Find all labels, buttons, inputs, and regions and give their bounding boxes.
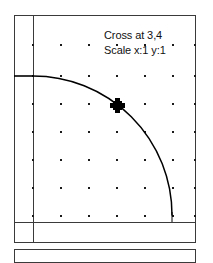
cross-position-label: Cross at 3,4: [104, 28, 196, 43]
scale-label: Scale x:1 y:1: [104, 43, 196, 58]
plot-annotations: Cross at 3,4 Scale x:1 y:1: [104, 28, 196, 58]
y-axis-line: [33, 15, 34, 243]
x-axis-line: [14, 222, 196, 223]
secondary-panel-frame: [14, 249, 196, 263]
